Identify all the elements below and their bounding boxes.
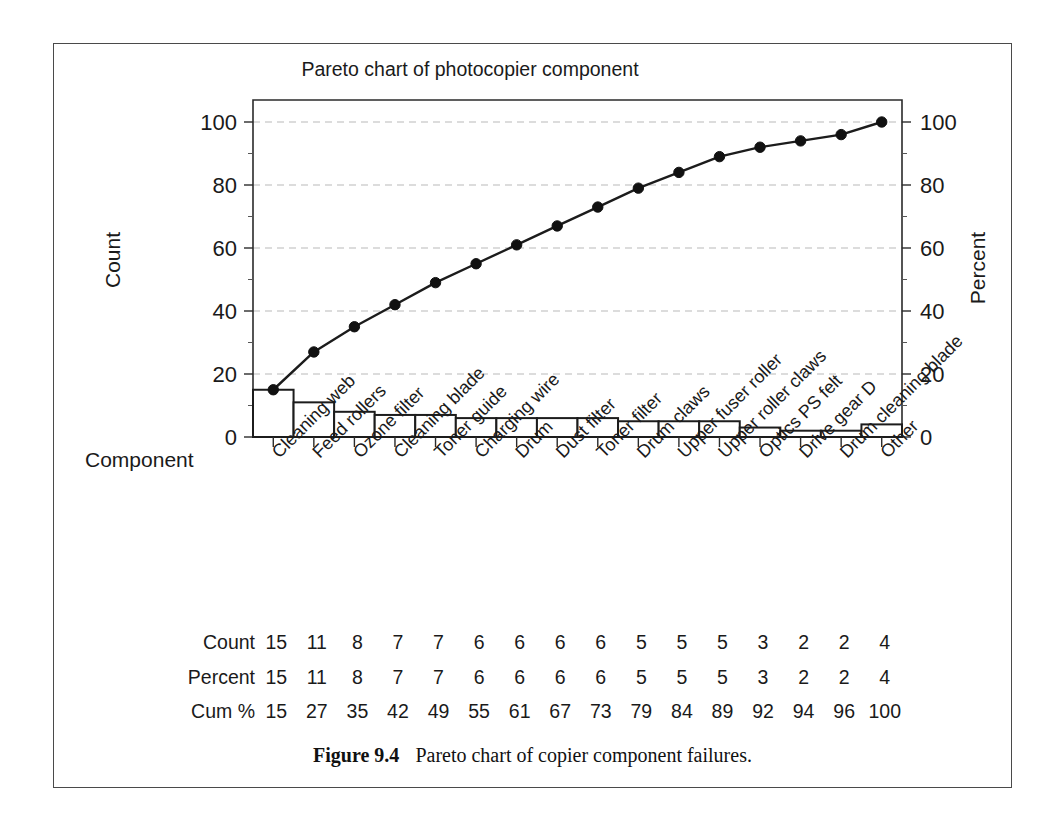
y-axis-tick-label: 80 xyxy=(213,173,237,198)
cumulative-marker-7 xyxy=(552,221,562,231)
cumulative-marker-1 xyxy=(309,347,319,357)
cumulative-marker-5 xyxy=(471,259,481,269)
table-cell: 100 xyxy=(868,700,901,722)
table-cell: 4 xyxy=(879,666,890,688)
caption-label: Figure 9.4 xyxy=(313,744,399,766)
table-cell: 2 xyxy=(798,631,809,653)
table-cell: 92 xyxy=(752,700,774,722)
table-cell: 2 xyxy=(798,666,809,688)
cumulative-marker-9 xyxy=(633,183,643,193)
table-row-label: Count xyxy=(203,631,256,653)
x-axis-label: Component xyxy=(85,448,194,471)
table-cell: 5 xyxy=(636,666,647,688)
pareto-chart: Pareto chart of photocopier component020… xyxy=(0,0,1060,832)
cumulative-marker-2 xyxy=(349,322,359,332)
table-cell: 3 xyxy=(758,631,769,653)
cumulative-marker-11 xyxy=(714,151,724,161)
table-cell: 2 xyxy=(839,666,850,688)
table-cell: 35 xyxy=(347,700,369,722)
table-cell: 84 xyxy=(671,700,693,722)
y2-axis-tick-label: 80 xyxy=(920,173,944,198)
cumulative-marker-12 xyxy=(755,142,765,152)
y2-axis-tick-label: 60 xyxy=(920,236,944,261)
y-axis-tick-label: 20 xyxy=(213,362,237,387)
table-cell: 73 xyxy=(590,700,612,722)
table-cell: 15 xyxy=(265,700,287,722)
table-cell: 79 xyxy=(630,700,652,722)
y-axis-tick-label: 40 xyxy=(213,299,237,324)
chart-title: Pareto chart of photocopier component xyxy=(301,58,639,80)
table-cell: 3 xyxy=(758,666,769,688)
table-cell: 7 xyxy=(393,631,404,653)
table-cell: 27 xyxy=(306,700,328,722)
table-cell: 6 xyxy=(595,631,606,653)
y-axis-tick-label: 0 xyxy=(225,425,237,450)
table-cell: 61 xyxy=(509,700,531,722)
y-axis-label: Count xyxy=(101,232,124,288)
cumulative-marker-8 xyxy=(593,202,603,212)
table-cell: 6 xyxy=(474,631,485,653)
table-cell: 8 xyxy=(352,631,363,653)
y2-axis-label: Percent xyxy=(966,232,989,305)
y2-axis-tick-label: 100 xyxy=(920,110,957,135)
table-cell: 6 xyxy=(555,666,566,688)
cumulative-marker-14 xyxy=(836,129,846,139)
table-cell: 89 xyxy=(712,700,734,722)
cumulative-marker-3 xyxy=(390,300,400,310)
table-cell: 4 xyxy=(879,631,890,653)
table-cell: 49 xyxy=(428,700,450,722)
table-cell: 6 xyxy=(514,631,525,653)
y2-axis-tick-label: 40 xyxy=(920,299,944,324)
table-cell: 15 xyxy=(265,666,287,688)
caption-text: Pareto chart of copier component failure… xyxy=(415,744,752,766)
y-axis-tick-label: 60 xyxy=(213,236,237,261)
cumulative-percent-line xyxy=(273,122,881,390)
figure-caption: Figure 9.4Pareto chart of copier compone… xyxy=(53,744,1012,767)
table-row-label: Cum % xyxy=(191,700,255,722)
table-cell: 6 xyxy=(555,631,566,653)
table-cell: 15 xyxy=(265,631,287,653)
cumulative-marker-6 xyxy=(511,240,521,250)
cumulative-marker-10 xyxy=(674,167,684,177)
table-cell: 6 xyxy=(595,666,606,688)
table-cell: 11 xyxy=(307,631,327,653)
table-cell: 55 xyxy=(468,700,490,722)
table-cell: 5 xyxy=(717,666,728,688)
y-axis-tick-label: 100 xyxy=(200,110,237,135)
table-cell: 42 xyxy=(387,700,409,722)
table-cell: 6 xyxy=(474,666,485,688)
table-cell: 2 xyxy=(839,631,850,653)
table-cell: 7 xyxy=(433,666,444,688)
table-cell: 8 xyxy=(352,666,363,688)
table-cell: 7 xyxy=(393,666,404,688)
table-cell: 5 xyxy=(676,666,687,688)
table-cell: 94 xyxy=(793,700,815,722)
table-cell: 6 xyxy=(514,666,525,688)
table-cell: 7 xyxy=(433,631,444,653)
cumulative-marker-4 xyxy=(430,277,440,287)
table-cell: 96 xyxy=(833,700,855,722)
table-cell: 5 xyxy=(636,631,647,653)
cumulative-marker-0 xyxy=(268,385,278,395)
table-cell: 11 xyxy=(307,666,327,688)
table-cell: 5 xyxy=(676,631,687,653)
table-cell: 67 xyxy=(549,700,571,722)
figure-page: Pareto chart of photocopier component020… xyxy=(0,0,1060,832)
y2-axis-tick-label: 0 xyxy=(920,425,932,450)
cumulative-marker-15 xyxy=(877,117,887,127)
table-row-label: Percent xyxy=(188,666,256,688)
cumulative-marker-13 xyxy=(795,136,805,146)
table-cell: 5 xyxy=(717,631,728,653)
